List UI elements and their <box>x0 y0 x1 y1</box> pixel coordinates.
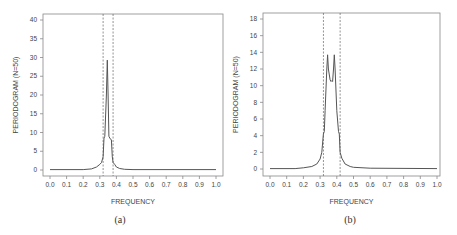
y-tick-label: 16 <box>250 32 258 39</box>
y-tick-label: 18 <box>250 15 258 22</box>
y-tick-label: 10 <box>30 129 38 136</box>
y-axis-title: PERIODOGRAM (N=50) <box>232 56 240 133</box>
chart-panel-b: 0246810121416180.00.10.20.30.40.50.60.70… <box>232 13 442 226</box>
x-tick-label: 0.1 <box>282 181 291 188</box>
x-tick-label: 0.7 <box>382 181 391 188</box>
x-tick-label: 0.5 <box>349 181 358 188</box>
y-tick-label: 30 <box>30 54 38 61</box>
y-tick-label: 8 <box>253 99 257 106</box>
y-tick-label: 40 <box>30 16 38 23</box>
y-tick-label: 20 <box>30 91 38 98</box>
chart-panel-a: 05101520253035400.00.10.20.30.40.50.60.7… <box>12 14 223 226</box>
x-tick-label: 0.4 <box>112 181 121 188</box>
plot-frame <box>43 14 223 176</box>
periodogram-line <box>270 55 437 169</box>
x-tick-label: 0.1 <box>62 181 71 188</box>
x-tick-label: 0.9 <box>195 181 204 188</box>
panel-caption: (a) <box>114 214 125 226</box>
y-tick-label: 4 <box>253 132 257 139</box>
y-tick-label: 15 <box>30 110 38 117</box>
y-tick-label: 0 <box>253 165 257 172</box>
x-tick-label: 0.7 <box>162 181 171 188</box>
periodogram-line <box>50 60 216 170</box>
y-tick-label: 0 <box>33 166 37 173</box>
x-tick-label: 0.3 <box>316 181 325 188</box>
x-tick-label: 0.2 <box>299 181 308 188</box>
x-tick-label: 0.0 <box>265 181 274 188</box>
x-tick-label: 0.6 <box>366 181 375 188</box>
plot-frame <box>263 13 440 176</box>
x-tick-label: 0.5 <box>128 181 137 188</box>
x-axis-title: FREQUENCY <box>330 198 374 206</box>
x-axis-title: FREQUENCY <box>111 198 155 206</box>
x-tick-label: 0.4 <box>332 181 341 188</box>
periodogram-figure: 05101520253035400.00.10.20.30.40.50.60.7… <box>0 0 457 235</box>
y-tick-label: 12 <box>250 65 258 72</box>
y-axis-title: PERIODOGRAM (N=50) <box>12 57 20 134</box>
x-tick-label: 0.3 <box>95 181 104 188</box>
x-tick-label: 0.2 <box>79 181 88 188</box>
x-tick-label: 1.0 <box>211 181 220 188</box>
x-tick-label: 0.6 <box>145 181 154 188</box>
x-tick-label: 0.8 <box>399 181 408 188</box>
x-tick-label: 0.8 <box>178 181 187 188</box>
y-tick-label: 10 <box>250 82 258 89</box>
y-tick-label: 6 <box>253 115 257 122</box>
y-tick-label: 2 <box>253 149 257 156</box>
y-tick-label: 5 <box>33 147 37 154</box>
x-tick-label: 0.9 <box>416 181 425 188</box>
y-tick-label: 14 <box>250 49 258 56</box>
y-tick-label: 35 <box>30 35 38 42</box>
panel-caption: (b) <box>344 214 356 226</box>
x-tick-label: 0.0 <box>45 181 54 188</box>
y-tick-label: 25 <box>30 72 38 79</box>
x-tick-label: 1.0 <box>432 181 441 188</box>
